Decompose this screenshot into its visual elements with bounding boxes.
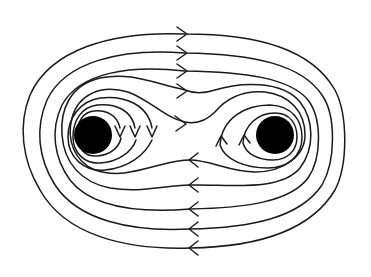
bottom-arrows-left: [189, 153, 198, 255]
arrow-up-icon: [239, 135, 250, 145]
arrow-right-icon: [177, 84, 187, 98]
arrow-right-icon: [175, 116, 186, 131]
arrow-up-icon: [216, 136, 227, 146]
right-vortex-core: [256, 116, 294, 154]
top-arrows-right: [175, 27, 187, 131]
left-vortex-arrows: [115, 126, 157, 137]
left-vortex-core: [74, 116, 112, 154]
vortex-streamline-diagram: [0, 0, 371, 277]
